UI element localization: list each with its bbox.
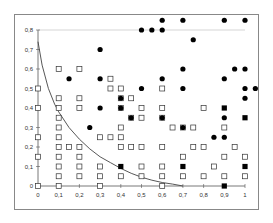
filled-square-point [242, 164, 247, 169]
filled-circle-point [222, 135, 227, 140]
open-square-point [36, 135, 41, 140]
open-square-point [160, 174, 165, 179]
open-square-point [118, 174, 123, 179]
filled-square-point [118, 164, 123, 169]
open-square-point [160, 106, 165, 111]
open-square-point [56, 96, 61, 101]
filled-circle-point [66, 76, 71, 81]
filled-square-point [222, 105, 227, 110]
filled-circle-point [253, 86, 258, 91]
open-square-point [36, 86, 41, 91]
open-square-point [222, 125, 227, 130]
y-tick-label: 0,2 [25, 144, 34, 150]
open-square-point [118, 135, 123, 140]
x-tick-label: 0,4 [117, 192, 126, 198]
open-square-point [56, 125, 61, 130]
filled-circle-point [98, 76, 103, 81]
open-square-point [191, 145, 196, 150]
filled-circle-point [180, 18, 185, 23]
open-square-point [98, 135, 103, 140]
open-square-point [139, 164, 144, 169]
filled-circle-point [149, 27, 154, 32]
axes: 00,10,20,30,40,50,60,70,80,9100,10,20,30… [25, 27, 248, 198]
open-square-point [98, 174, 103, 179]
filled-circle-point [160, 115, 165, 120]
x-tick-label: 0,6 [158, 192, 167, 198]
y-tick-label: 0,6 [25, 66, 34, 72]
open-square-point [243, 174, 248, 179]
open-square-point [56, 174, 61, 179]
filled-circle-point [129, 115, 134, 120]
filled-circle-point [98, 105, 103, 110]
open-square-point [139, 174, 144, 179]
filled-circle-point [222, 115, 227, 120]
open-square-point [129, 96, 134, 101]
y-tick-label: 0,8 [25, 27, 34, 33]
open-square-point [56, 145, 61, 150]
open-square-point [232, 145, 237, 150]
open-square-point [160, 145, 165, 150]
open-square-point [118, 86, 123, 91]
filled-circle-point [191, 37, 196, 42]
open-square-point [56, 67, 61, 72]
filled-circle-point [222, 76, 227, 81]
filled-circle-point [211, 135, 216, 140]
open-square-point [160, 184, 165, 189]
open-square-point [118, 145, 123, 150]
open-square-point [77, 154, 82, 159]
filled-circle-point [160, 27, 165, 32]
filled-circle-point [118, 105, 123, 110]
open-square-point [56, 115, 61, 120]
marks [36, 18, 258, 189]
open-square-point [222, 154, 227, 159]
open-square-point [67, 145, 72, 150]
y-tick-label: 0,3 [25, 125, 34, 131]
x-tick-label: 1 [243, 192, 247, 198]
open-square-point [180, 154, 185, 159]
open-square-point [56, 135, 61, 140]
open-square-point [77, 174, 82, 179]
filled-square-point [222, 183, 227, 188]
open-square-point [180, 174, 185, 179]
x-tick-label: 0,7 [179, 192, 188, 198]
scatter-chart: 00,10,20,30,40,50,60,70,80,9100,10,20,30… [0, 0, 273, 223]
y-tick-label: 0,4 [25, 105, 34, 111]
open-square-point [77, 96, 82, 101]
open-square-point [56, 164, 61, 169]
open-square-point [243, 154, 248, 159]
open-square-point [108, 86, 113, 91]
filled-circle-point [242, 96, 247, 101]
open-square-point [56, 184, 61, 189]
open-square-point [201, 174, 206, 179]
open-square-point [77, 106, 82, 111]
filled-circle-point [87, 125, 92, 130]
filled-square-point [242, 115, 247, 120]
filled-circle-point [139, 27, 144, 32]
open-square-point [139, 106, 144, 111]
filled-circle-point [98, 47, 103, 52]
open-square-point [139, 145, 144, 150]
open-square-point [77, 164, 82, 169]
filled-circle-point [180, 125, 185, 130]
filled-circle-point [242, 86, 247, 91]
open-square-point [191, 125, 196, 130]
y-tick-label: 0,5 [25, 86, 34, 92]
x-tick-label: 0,2 [75, 192, 84, 198]
filled-circle-point [242, 66, 247, 71]
filled-circle-point [160, 18, 165, 23]
x-tick-label: 0,9 [220, 192, 229, 198]
open-square-point [160, 164, 165, 169]
filled-circle-point [232, 66, 237, 71]
open-square-point [108, 135, 113, 140]
open-square-point [98, 164, 103, 169]
filled-circle-point [242, 18, 247, 23]
filled-circle-point [160, 76, 165, 81]
open-square-point [211, 164, 216, 169]
open-square-point [129, 145, 134, 150]
filled-circle-point [180, 66, 185, 71]
y-tick-label: 0,7 [25, 47, 34, 53]
filled-circle-point [180, 86, 185, 91]
y-tick-label: 0,1 [25, 164, 34, 170]
open-square-point [56, 106, 61, 111]
x-tick-label: 0,3 [96, 192, 105, 198]
